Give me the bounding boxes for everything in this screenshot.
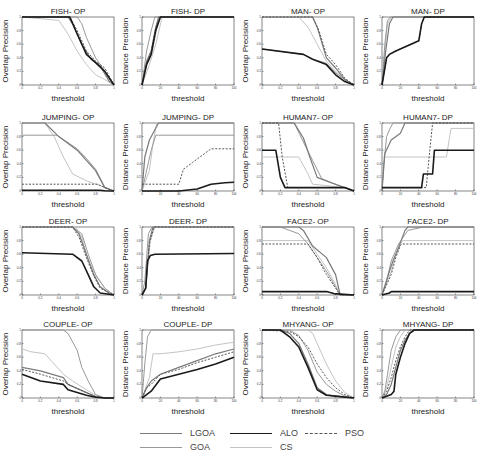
svg-text:1: 1 <box>139 15 141 19</box>
x-axis-label: threshold <box>412 94 445 103</box>
mhyang-dp-chart: MHYANG- DPDistance Precisionthreshold020… <box>360 318 479 422</box>
svg-text:0.6: 0.6 <box>75 296 80 300</box>
svg-text:0.8: 0.8 <box>257 342 262 346</box>
chart-title: MAN- OP <box>291 7 325 16</box>
svg-text:100: 100 <box>471 399 476 403</box>
svg-text:0.2: 0.2 <box>17 175 22 179</box>
svg-text:1: 1 <box>19 328 21 332</box>
svg-text:100: 100 <box>471 86 476 90</box>
svg-text:0.2: 0.2 <box>17 69 22 73</box>
svg-text:0.4: 0.4 <box>257 266 262 270</box>
svg-text:0.8: 0.8 <box>377 342 382 346</box>
couple-op-chart: COUPLE- OPOverlap Precisionthreshold00.2… <box>0 318 120 422</box>
svg-text:0.8: 0.8 <box>334 86 339 90</box>
plot-area <box>142 227 234 295</box>
y-axis-label: Distance Precision <box>361 18 370 84</box>
svg-text:1: 1 <box>353 86 355 90</box>
svg-text:0: 0 <box>381 296 383 300</box>
svg-text:0.4: 0.4 <box>297 192 302 196</box>
svg-text:0: 0 <box>381 192 383 196</box>
svg-text:0: 0 <box>21 192 23 196</box>
svg-text:0.6: 0.6 <box>17 148 22 152</box>
x-axis-label: threshold <box>412 304 445 313</box>
human7-op-chart: HUMAN7- OPOverlap Precisionthreshold00.2… <box>240 111 360 215</box>
legend: LGOA ALO PSO GOA CS <box>140 428 380 464</box>
svg-text:0: 0 <box>261 86 263 90</box>
legend-label: ALO <box>280 428 298 438</box>
svg-text:1: 1 <box>353 399 355 403</box>
svg-text:0.6: 0.6 <box>257 42 262 46</box>
svg-text:0.4: 0.4 <box>17 162 22 166</box>
x-axis-label: threshold <box>52 304 85 313</box>
svg-text:0.4: 0.4 <box>137 369 142 373</box>
x-axis-label: threshold <box>292 407 325 416</box>
x-axis-label: threshold <box>172 304 205 313</box>
svg-text:0.4: 0.4 <box>137 56 142 60</box>
svg-text:0.4: 0.4 <box>377 162 382 166</box>
x-axis-label: threshold <box>292 200 325 209</box>
svg-text:1: 1 <box>113 192 115 196</box>
svg-text:100: 100 <box>471 192 476 196</box>
svg-text:0.8: 0.8 <box>17 135 22 139</box>
svg-text:80: 80 <box>214 192 218 196</box>
legend-label: LGOA <box>190 428 215 438</box>
chart-title: COUPLE- OP <box>43 320 92 329</box>
x-axis-label: threshold <box>52 407 85 416</box>
svg-text:0.8: 0.8 <box>257 239 262 243</box>
y-axis-label: Overlap Precision <box>1 229 10 292</box>
couple-dp-chart: COUPLE- DPDistance Precisionthreshold020… <box>120 318 240 422</box>
legend-line-icon <box>305 433 337 434</box>
svg-text:1: 1 <box>353 192 355 196</box>
svg-text:80: 80 <box>454 192 458 196</box>
svg-text:0.4: 0.4 <box>57 86 62 90</box>
svg-text:0: 0 <box>21 399 23 403</box>
legend-item-alo: ALO <box>230 428 298 438</box>
svg-text:0: 0 <box>141 296 143 300</box>
svg-text:1: 1 <box>19 15 21 19</box>
svg-text:0.6: 0.6 <box>75 192 80 196</box>
svg-text:0.4: 0.4 <box>377 56 382 60</box>
series-alo <box>22 190 114 191</box>
deer-op-chart: DEER- OPOverlap Precisionthreshold00.20.… <box>0 215 120 319</box>
svg-text:20: 20 <box>159 86 163 90</box>
svg-text:0.2: 0.2 <box>257 382 262 386</box>
svg-text:0.8: 0.8 <box>17 342 22 346</box>
svg-text:1: 1 <box>353 296 355 300</box>
svg-text:0.6: 0.6 <box>377 42 382 46</box>
svg-text:0.2: 0.2 <box>38 86 43 90</box>
svg-text:0.2: 0.2 <box>17 382 22 386</box>
svg-text:0.2: 0.2 <box>278 192 283 196</box>
svg-text:0.2: 0.2 <box>257 69 262 73</box>
svg-text:1: 1 <box>379 15 381 19</box>
svg-text:0.6: 0.6 <box>17 355 22 359</box>
svg-text:0.2: 0.2 <box>137 69 142 73</box>
y-axis-label: Overlap Precision <box>241 332 250 395</box>
svg-text:0.2: 0.2 <box>377 382 382 386</box>
face2-op-chart: FACE2- OPOverlap Precisionthreshold00.20… <box>240 215 360 319</box>
fish-op-chart: FISH- OPOverlap Precisionthreshold00.20.… <box>0 5 120 109</box>
legend-line-icon <box>230 433 272 434</box>
svg-text:0.4: 0.4 <box>17 56 22 60</box>
svg-text:20: 20 <box>399 86 403 90</box>
svg-text:60: 60 <box>196 86 200 90</box>
svg-text:0.4: 0.4 <box>17 369 22 373</box>
legend-label: GOA <box>190 442 210 452</box>
chart-title: MAN- DP <box>411 7 445 16</box>
svg-text:0.2: 0.2 <box>17 279 22 283</box>
svg-text:0.8: 0.8 <box>137 239 142 243</box>
svg-text:0: 0 <box>21 296 23 300</box>
y-axis-label: Distance Precision <box>361 228 370 294</box>
man-dp-chart: MAN- DPDistance Precisionthreshold020406… <box>360 5 479 109</box>
human7-dp-chart: HUMAN7- DPDistance Precisionthreshold020… <box>360 111 479 215</box>
x-axis-label: threshold <box>52 200 85 209</box>
svg-text:0.8: 0.8 <box>257 29 262 33</box>
svg-text:0.6: 0.6 <box>257 355 262 359</box>
y-axis-label: Distance Precision <box>121 18 130 84</box>
svg-text:0.8: 0.8 <box>334 399 339 403</box>
chart-title: HUMAN7- DP <box>403 113 453 122</box>
svg-text:0.4: 0.4 <box>137 266 142 270</box>
y-axis-label: Overlap Precision <box>1 19 10 82</box>
svg-text:0.8: 0.8 <box>17 239 22 243</box>
svg-text:0.4: 0.4 <box>137 162 142 166</box>
svg-text:0: 0 <box>261 296 263 300</box>
